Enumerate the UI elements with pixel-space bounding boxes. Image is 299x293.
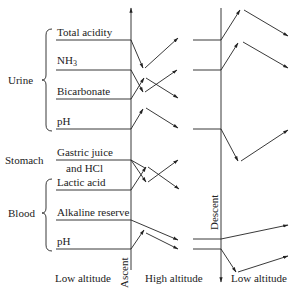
row-label-gastric-juice: Gastric juice xyxy=(57,147,113,158)
group-label-blood: Blood xyxy=(8,208,35,219)
row-label-and-hcl: and HCl xyxy=(66,163,103,174)
row-label-bicarbonate: Bicarbonate xyxy=(57,86,110,97)
row-label-alkaline-reserve: Alkaline reserve xyxy=(57,207,129,218)
group-label-stomach: Stomach xyxy=(5,155,44,166)
high-altitude-label: High altitude xyxy=(145,273,203,284)
group-label-urine: Urine xyxy=(8,75,33,86)
low-altitude-right-label: Low altitude xyxy=(231,273,287,284)
blood-brace xyxy=(42,179,52,251)
descent-label: Descent xyxy=(209,195,220,230)
nh-text: NH xyxy=(57,54,73,66)
nh-subscript: 3 xyxy=(73,59,77,68)
altitude-diagram: Urine Stomach Blood Total acidity NH3 Bi… xyxy=(0,0,299,293)
row-label-blood-ph: pH xyxy=(57,236,70,247)
row-label-lactic-acid: Lactic acid xyxy=(57,177,106,188)
row-label-nh3: NH3 xyxy=(57,55,77,68)
low-altitude-left-label: Low altitude xyxy=(55,273,111,284)
ascent-label: Ascent xyxy=(119,257,130,288)
row-label-total-acidity: Total acidity xyxy=(57,27,112,38)
urine-brace xyxy=(42,29,52,131)
row-label-urine-ph: pH xyxy=(57,116,70,127)
diagram-lines xyxy=(0,0,299,293)
